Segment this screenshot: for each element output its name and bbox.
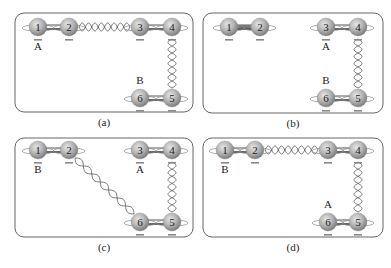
qubit-label-a: A — [136, 163, 144, 175]
panel-caption: (c) — [98, 241, 111, 254]
node-number: 3 — [137, 21, 143, 33]
link-4-5 — [354, 162, 362, 212]
qubit-label-a: A — [34, 40, 42, 52]
node-number: 2 — [252, 144, 258, 156]
node-number: 4 — [355, 21, 361, 33]
qubit-label-b: B — [221, 163, 228, 175]
panel-b: 123465AB(b) — [203, 13, 383, 130]
link-4-5 — [168, 162, 176, 212]
panel-d: 123465BA(d) — [203, 138, 383, 254]
link-2-6 — [75, 158, 134, 214]
node-number: 1 — [35, 144, 41, 156]
node-number: 3 — [323, 21, 329, 33]
node-number: 2 — [66, 21, 72, 33]
node-number: 6 — [325, 216, 331, 228]
panel-caption: (a) — [98, 116, 111, 129]
node-number: 5 — [355, 216, 361, 228]
node-number: 6 — [137, 216, 143, 228]
node-number: 4 — [169, 144, 175, 156]
link-2-3 — [79, 23, 130, 31]
node-number: 3 — [137, 144, 143, 156]
node-number: 3 — [325, 144, 331, 156]
link-4-5 — [354, 39, 362, 88]
panel-caption: (d) — [287, 241, 300, 254]
node-number: 4 — [169, 21, 175, 33]
link-4-5 — [168, 39, 176, 88]
node-number: 6 — [137, 92, 143, 104]
panel-a: 123465AB(a) — [15, 13, 193, 129]
node-number: 1 — [222, 144, 228, 156]
qubit-label-a: A — [324, 198, 332, 210]
node-number: 1 — [35, 21, 41, 33]
node-number: 2 — [257, 21, 263, 33]
qubit-label-b: B — [136, 74, 143, 86]
node-number: 1 — [226, 21, 232, 33]
node-number: 2 — [66, 144, 72, 156]
node-number: 4 — [355, 144, 361, 156]
node-number: 5 — [355, 92, 361, 104]
node-number: 5 — [169, 216, 175, 228]
qubit-label-b: B — [34, 163, 41, 175]
link-2-3 — [265, 146, 318, 154]
entanglement-diagram: 123465AB(a)123465AB(b)123465BA(c)123465B… — [0, 0, 391, 268]
qubit-label-a: A — [322, 40, 330, 52]
node-number: 6 — [323, 92, 329, 104]
panel-caption: (b) — [287, 117, 300, 130]
panel-c: 123465BA(c) — [15, 138, 193, 254]
node-number: 5 — [169, 92, 175, 104]
qubit-label-b: B — [322, 74, 329, 86]
